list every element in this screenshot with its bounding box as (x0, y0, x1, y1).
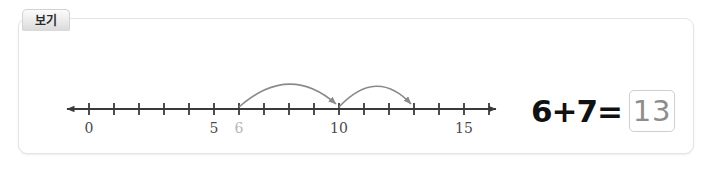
example-tab-label: 보기 (35, 15, 58, 27)
jump-arc-6-to-10 (239, 84, 336, 107)
axis-tick-label: 0 (85, 120, 94, 136)
example-tab: 보기 (22, 9, 70, 31)
jump-arc-10-to-13 (339, 86, 411, 107)
axis-tick-label: 5 (210, 120, 219, 136)
example-card: 0561015 6+7= 13 (18, 18, 694, 154)
equation-group: 6+7= 13 (531, 89, 675, 133)
axis-tick-label: 6 (235, 120, 244, 136)
answer-box[interactable]: 13 (629, 90, 675, 132)
axis-tick-label: 10 (330, 120, 348, 136)
screenshot-root: 0561015 6+7= 13 보기 (0, 0, 714, 176)
answer-value: 13 (633, 97, 672, 126)
equation-expression: 6+7= (531, 96, 622, 127)
axis-tick-label: 15 (455, 120, 473, 136)
